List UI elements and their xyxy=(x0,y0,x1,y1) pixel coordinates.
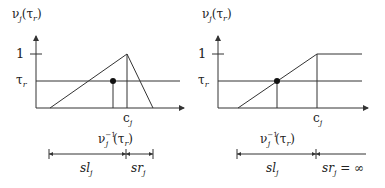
inverse-label: ν−1j(τr) xyxy=(98,131,133,148)
right-panel: νj(τr) 1 τr cj ν−1j(τr) slj srj = ∞ xyxy=(198,7,368,177)
y-axis-label: νj(τr) xyxy=(12,7,42,23)
tick-one-label: 1 xyxy=(16,46,24,61)
left-panel: νj(τr) 1 τr cj ν−1j(τr) slj srj xyxy=(12,7,184,177)
membership-function-diagram: νj(τr) 1 τr cj ν−1j(τr) slj srj νj(τr) 1 xyxy=(0,0,385,188)
intersection-dot xyxy=(274,78,280,84)
sr-label: srj xyxy=(131,161,146,177)
c-label: cj xyxy=(123,111,133,127)
tick-tau-label: τr xyxy=(198,73,210,89)
sl-label: slj xyxy=(80,161,93,177)
interval-bar xyxy=(49,149,153,159)
sl-label: slj xyxy=(266,161,279,177)
c-label: cj xyxy=(313,111,323,127)
interval-bar xyxy=(237,149,366,159)
tick-tau-label: τr xyxy=(16,73,28,89)
sr-label: srj = ∞ xyxy=(322,161,364,177)
y-axis-label: νj(τr) xyxy=(202,7,232,23)
tick-one-label: 1 xyxy=(198,46,206,61)
inverse-label: ν−1j(τr) xyxy=(260,131,295,148)
intersection-dot xyxy=(110,78,116,84)
